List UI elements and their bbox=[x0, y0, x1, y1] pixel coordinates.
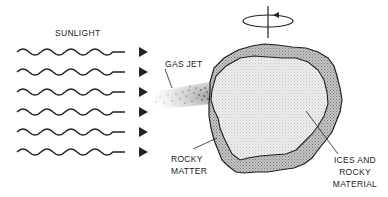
gas-jet-label: GAS JET bbox=[165, 59, 203, 70]
ices-and-rocky-material-label: ICES AND ROCKY MATERIAL bbox=[330, 155, 380, 190]
rocky-matter-label-line1: ROCKY bbox=[171, 154, 207, 165]
sunlight-label: SUNLIGHT bbox=[55, 28, 100, 39]
rocky-matter-leader-line bbox=[193, 138, 217, 149]
ices-label-line2: ROCKY bbox=[330, 167, 380, 178]
rocky-matter-label-line2: MATTER bbox=[171, 166, 207, 177]
ices-label-line3: MATERIAL bbox=[330, 179, 380, 190]
sunlight-ray-icon bbox=[17, 107, 148, 117]
sunlight-rays bbox=[17, 47, 148, 157]
sunlight-ray-icon bbox=[17, 87, 148, 97]
rocky-matter-label: ROCKY MATTER bbox=[171, 154, 207, 177]
comet-diagram: SUNLIGHT GAS JET ROCKY MATTER ICES AND R… bbox=[0, 0, 388, 197]
gas-jet-icon bbox=[152, 69, 212, 110]
rotation-arrow-icon bbox=[243, 6, 293, 38]
sunlight-ray-icon bbox=[17, 127, 148, 137]
sunlight-ray-icon bbox=[17, 47, 148, 57]
sunlight-ray-icon bbox=[17, 147, 148, 157]
sunlight-ray-icon bbox=[17, 67, 148, 77]
ices-label-line1: ICES AND bbox=[330, 155, 380, 166]
